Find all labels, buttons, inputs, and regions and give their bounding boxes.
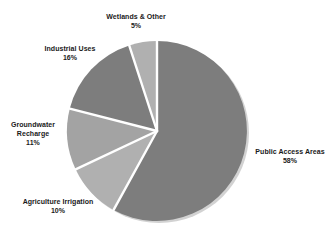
pie-chart: Wetlands & Other 5% Industrial Uses 16% … xyxy=(0,0,331,240)
pie-label-industrial-uses: Industrial Uses 16% xyxy=(22,44,118,62)
pie-label-groundwater-recharge-name-line2: Recharge xyxy=(2,129,64,138)
pie-label-public-access-areas: Public Access Areas 58% xyxy=(250,147,330,165)
pie-label-groundwater-recharge: Groundwater Recharge 11% xyxy=(2,120,64,148)
pie-label-public-access-areas-name: Public Access Areas xyxy=(255,148,324,155)
pie-label-public-access-areas-percent: 58% xyxy=(250,156,330,165)
pie-label-wetlands-other-name: Wetlands & Other xyxy=(106,13,165,20)
pie-label-wetlands-other-percent: 5% xyxy=(87,21,185,30)
pie-label-groundwater-recharge-percent: 11% xyxy=(2,138,64,147)
pie-label-industrial-uses-name: Industrial Uses xyxy=(45,45,96,52)
pie-label-industrial-uses-percent: 16% xyxy=(22,53,118,62)
pie-label-agriculture-irrigation: Agriculture Irrigation 10% xyxy=(12,197,104,215)
pie-label-groundwater-recharge-name-line1: Groundwater xyxy=(11,121,55,128)
pie-label-agriculture-irrigation-percent: 10% xyxy=(12,206,104,215)
pie-label-agriculture-irrigation-name: Agriculture Irrigation xyxy=(23,198,94,205)
pie-label-wetlands-other: Wetlands & Other 5% xyxy=(87,12,185,30)
